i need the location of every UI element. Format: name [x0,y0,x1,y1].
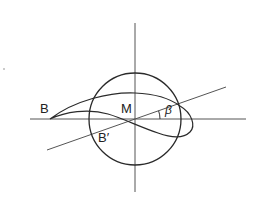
label-m: M [121,101,132,116]
label-b-prime: B′ [98,130,110,145]
label-b: B [40,101,49,116]
beta-angle-arc [159,111,160,119]
figure-canvas: B B′ M β [0,0,264,197]
stray-dot [3,68,5,70]
label-beta: β [164,103,172,117]
